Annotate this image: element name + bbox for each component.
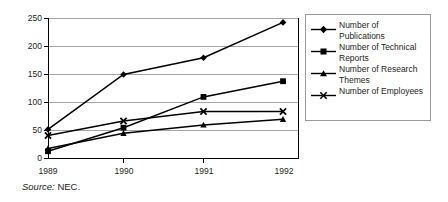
series-cross (45, 108, 286, 138)
legend-item-publications: Number ofPublications (310, 20, 426, 41)
legend-label-technical-reports-line1: Number of Technical (339, 42, 416, 52)
data-point (201, 94, 207, 100)
series-line (48, 22, 283, 129)
y-tick-label-200: 200 (18, 42, 42, 51)
source-prefix: Source: (22, 181, 55, 192)
y-tick-label-250: 250 (18, 14, 42, 23)
legend-item-employees: Number of Employees (310, 86, 426, 98)
x-tick-label-1992: 1992 (264, 167, 304, 176)
data-point (280, 19, 287, 26)
series-triangle (45, 116, 286, 151)
cross-marker-icon (310, 87, 337, 98)
y-tick-label-0: 0 (18, 154, 42, 163)
y-tick-label-100: 100 (18, 98, 42, 107)
legend-item-research-themes: Number of ResearchThemes (310, 64, 426, 85)
data-point (200, 54, 207, 61)
data-series-layer (45, 19, 287, 154)
legend-label-employees: Number of Employees (337, 86, 423, 97)
source-value: NEC. (57, 181, 80, 192)
diamond-marker-icon (310, 21, 337, 32)
legend-label-technical-reports-line2: Reports (339, 53, 369, 63)
triangle-marker-icon (310, 65, 337, 76)
legend-label-publications-line2: Publications (339, 31, 385, 41)
legend-label-publications: Number ofPublications (337, 20, 385, 41)
x-tick-label-1990: 1990 (104, 167, 144, 176)
chart-legend: Number ofPublications Number of Technica… (305, 14, 431, 121)
series-line (48, 111, 283, 135)
legend-label-publications-line1: Number of (339, 20, 379, 30)
y-tick-label-150: 150 (18, 70, 42, 79)
legend-label-research-themes-line2: Themes (339, 75, 370, 85)
legend-label-technical-reports: Number of TechnicalReports (337, 42, 416, 63)
legend-label-research-themes: Number of ResearchThemes (337, 64, 417, 85)
series-line (48, 119, 283, 148)
legend-item-technical-reports: Number of TechnicalReports (310, 42, 426, 63)
data-point (280, 78, 286, 84)
plot-frame (48, 18, 299, 159)
gridlines (48, 19, 299, 131)
source-note: Source: NEC. (22, 181, 80, 192)
y-tick-label-50: 50 (18, 126, 42, 135)
x-axis-ticks (124, 159, 204, 164)
legend-label-employees-line1: Number of Employees (339, 86, 423, 96)
data-point (121, 125, 127, 131)
square-marker-icon (310, 43, 337, 54)
x-tick-label-1989: 1989 (28, 167, 68, 176)
legend-label-research-themes-line1: Number of Research (339, 64, 417, 74)
x-tick-label-1991: 1991 (184, 167, 224, 176)
